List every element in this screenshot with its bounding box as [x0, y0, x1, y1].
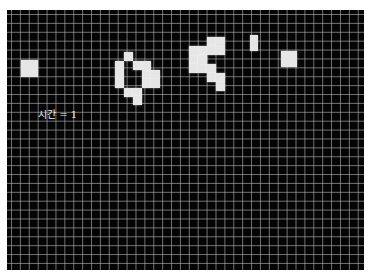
live-cell	[281, 51, 297, 67]
live-cell	[250, 35, 258, 51]
time-label: 시간 = 1	[38, 106, 77, 121]
live-cell	[142, 79, 151, 88]
live-cell	[133, 61, 142, 70]
live-cell	[142, 61, 151, 70]
live-cell	[189, 64, 198, 73]
live-cell	[151, 79, 160, 88]
live-cell	[115, 70, 124, 79]
live-cell	[189, 55, 198, 64]
live-cell	[115, 61, 124, 70]
live-cell	[216, 37, 225, 46]
live-cell	[124, 88, 133, 97]
live-cell	[21, 60, 38, 77]
live-cell	[151, 70, 160, 79]
live-cell	[207, 64, 216, 73]
live-cell	[189, 46, 198, 55]
live-cell	[216, 82, 225, 91]
live-cell	[216, 46, 225, 55]
live-cell	[207, 46, 216, 55]
live-cell	[216, 73, 225, 82]
live-cell	[207, 73, 216, 82]
live-cell	[133, 96, 142, 105]
live-cell	[198, 55, 207, 64]
live-cell	[198, 46, 207, 55]
live-cell	[142, 70, 151, 79]
automaton-grid: 시간 = 1	[7, 10, 364, 270]
live-cell	[198, 64, 207, 73]
live-cell	[124, 52, 133, 61]
live-cell	[115, 79, 124, 88]
live-cell	[207, 37, 216, 46]
